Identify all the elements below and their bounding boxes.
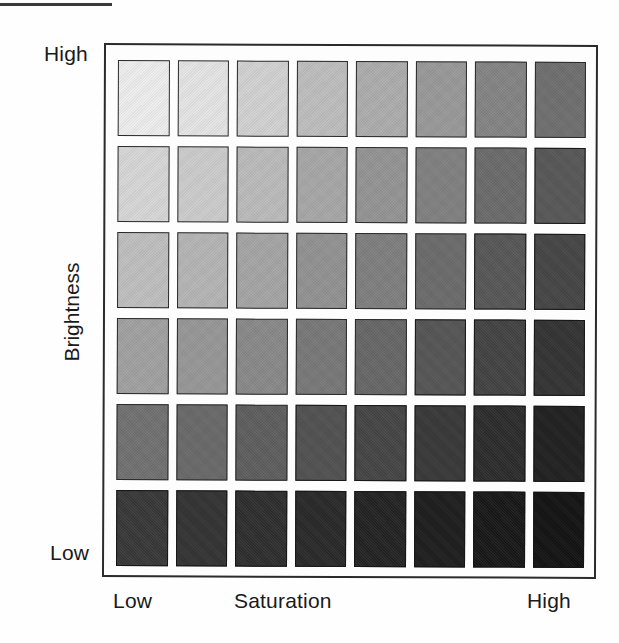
swatch-r3-c3: [236, 233, 288, 309]
plot-frame: [102, 43, 598, 579]
y-axis-low-label: Low: [50, 541, 89, 565]
swatch-r2-c1: [117, 146, 169, 222]
swatch-r4-c7: [474, 319, 526, 395]
swatch-r2-c8: [534, 148, 586, 224]
x-axis-low-label: Low: [113, 589, 152, 613]
swatch-r6-c5: [354, 491, 406, 567]
swatch-r3-c5: [355, 233, 407, 309]
swatch-r5-c6: [414, 405, 466, 481]
y-axis-title: Brightness: [60, 232, 84, 392]
swatch-r1-c7: [475, 61, 527, 137]
swatch-r5-c8: [533, 406, 585, 482]
swatch-r4-c1: [117, 318, 169, 394]
swatch-r3-c7: [474, 233, 526, 309]
swatch-r1-c1: [118, 60, 170, 136]
swatch-r5-c4: [295, 405, 347, 481]
swatch-r6-c7: [473, 491, 525, 567]
x-axis-high-label: High: [527, 589, 571, 613]
swatch-r1-c3: [237, 61, 289, 137]
swatch-r3-c6: [415, 233, 467, 309]
swatch-r6-c1: [116, 490, 168, 566]
swatch-grid: [116, 60, 586, 568]
swatch-r4-c5: [355, 319, 407, 395]
swatch-r6-c4: [295, 491, 347, 567]
y-axis-high-label: High: [44, 42, 88, 66]
swatch-r3-c1: [117, 232, 169, 308]
swatch-r4-c8: [533, 320, 585, 396]
swatch-r1-c2: [177, 60, 229, 136]
swatch-r5-c2: [176, 404, 228, 480]
swatch-r4-c6: [414, 319, 466, 395]
swatch-r2-c4: [296, 147, 348, 223]
swatch-r3-c4: [296, 233, 348, 309]
swatch-r6-c2: [176, 490, 228, 566]
top-divider-rule: [0, 3, 112, 6]
swatch-r5-c3: [235, 405, 287, 481]
swatch-r4-c3: [236, 319, 288, 395]
swatch-r1-c5: [356, 61, 408, 137]
swatch-r5-c7: [473, 405, 525, 481]
swatch-r4-c4: [295, 319, 347, 395]
swatch-r3-c2: [177, 232, 229, 308]
swatch-r2-c5: [355, 147, 407, 223]
swatch-r1-c4: [296, 61, 348, 137]
swatch-r4-c2: [176, 318, 228, 394]
swatch-r2-c2: [177, 146, 229, 222]
x-axis-title: Saturation: [234, 589, 332, 613]
swatch-r1-c6: [415, 61, 467, 137]
swatch-r6-c6: [414, 491, 466, 567]
swatch-r5-c1: [116, 404, 168, 480]
swatch-r6-c8: [533, 492, 585, 568]
swatch-r3-c8: [534, 234, 586, 310]
swatch-r5-c5: [354, 405, 406, 481]
swatch-r2-c3: [236, 147, 288, 223]
swatch-r2-c7: [474, 147, 526, 223]
brightness-saturation-figure: High Low Brightness Low Saturation High: [0, 0, 619, 643]
swatch-r1-c8: [534, 62, 586, 138]
swatch-r2-c6: [415, 147, 467, 223]
swatch-r6-c3: [235, 491, 287, 567]
